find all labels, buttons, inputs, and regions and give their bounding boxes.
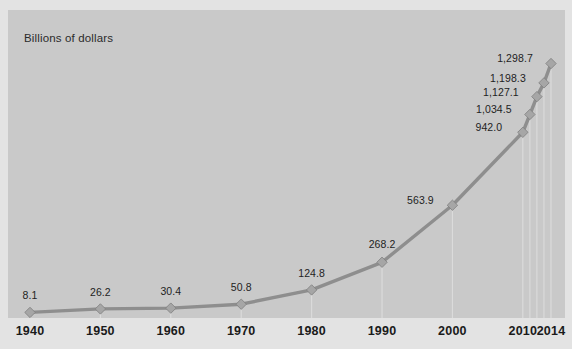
data-point-marker	[236, 299, 246, 309]
data-value-label: 268.2	[369, 238, 396, 250]
x-tick-label: 1940	[16, 324, 45, 338]
data-value-label: 124.8	[298, 267, 325, 279]
data-value-label: 1,298.7	[497, 52, 533, 64]
gridlines-group	[30, 64, 551, 318]
data-value-label: 1,034.5	[476, 103, 512, 115]
data-value-label: 30.4	[160, 285, 181, 297]
data-value-label: 1,198.3	[490, 72, 526, 84]
x-tick-label: 1960	[156, 324, 185, 338]
data-point-marker	[95, 304, 105, 314]
data-point-marker	[306, 285, 316, 295]
data-value-label: 942.0	[475, 121, 502, 133]
data-point-marker	[25, 307, 35, 317]
data-value-label: 50.8	[231, 281, 252, 293]
x-tick-label: 1950	[86, 324, 115, 338]
line-chart-graphic	[0, 0, 572, 349]
data-point-markers-group	[25, 58, 556, 317]
x-tick-label: 1970	[227, 324, 256, 338]
data-value-label: 563.9	[407, 194, 434, 206]
x-tick-label: 2000	[438, 324, 467, 338]
x-tick-label: 2010	[509, 324, 538, 338]
data-point-marker	[166, 303, 176, 313]
series-line	[30, 64, 551, 313]
x-tick-label: 1980	[297, 324, 326, 338]
data-value-label: 1,127.1	[483, 86, 519, 98]
x-axis-tick-labels: 194019501960197019801990200020102014	[0, 318, 572, 349]
data-point-marker	[546, 58, 556, 68]
x-tick-label: 1990	[368, 324, 397, 338]
data-value-label: 26.2	[90, 286, 111, 298]
data-value-label: 8.1	[23, 289, 38, 301]
chart-figure: Billions of dollars 8.126.230.450.8124.8…	[0, 0, 572, 349]
data-point-marker	[525, 109, 535, 119]
x-tick-label: 2014	[537, 324, 566, 338]
